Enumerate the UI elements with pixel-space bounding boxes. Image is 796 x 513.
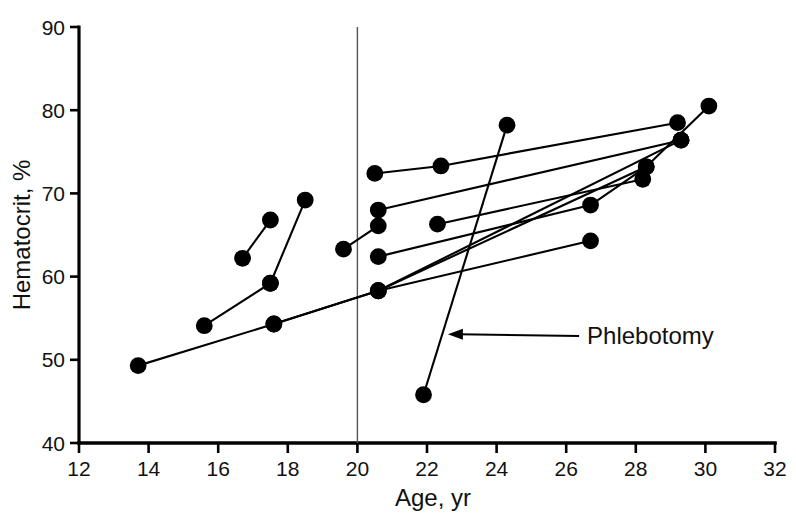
x-axis-title: Age, yr (395, 484, 471, 511)
data-point-patient-6-1[interactable] (370, 217, 387, 234)
x-tick-label-16: 16 (207, 457, 230, 480)
data-point-patient-4-4[interactable] (700, 98, 717, 115)
data-point-patient-7-2[interactable] (669, 114, 686, 131)
data-point-patient-1-0[interactable] (234, 250, 251, 267)
data-point-patient-7-1[interactable] (433, 158, 450, 175)
y-axis-title: Hematocrit, % (8, 160, 35, 311)
data-point-patient-9-1[interactable] (582, 197, 599, 214)
data-point-phlebotomy-series-1[interactable] (499, 117, 516, 134)
series-line-patient-7 (375, 123, 678, 174)
y-tick-label-40: 40 (42, 432, 65, 455)
data-point-patient-10-1[interactable] (634, 171, 651, 188)
x-tick-label-20: 20 (346, 457, 369, 480)
series-line-patient-3 (204, 283, 270, 325)
data-point-patient-10-0[interactable] (429, 216, 446, 233)
x-tick-label-14: 14 (137, 457, 161, 480)
data-point-patient-3-0[interactable] (196, 317, 213, 334)
series-line-patient-9 (378, 167, 646, 257)
annotation-arrowhead-0 (448, 329, 463, 340)
x-tick-label-12: 12 (67, 457, 90, 480)
series-line-patient-2 (270, 200, 305, 283)
data-point-patient-3-1[interactable] (262, 275, 279, 292)
x-tick-label-22: 22 (415, 457, 438, 480)
data-point-phlebotomy-series-0[interactable] (415, 386, 432, 403)
y-tick-label-90: 90 (42, 16, 65, 39)
x-tick-label-24: 24 (485, 457, 509, 480)
data-point-patient-8-1[interactable] (673, 132, 690, 149)
x-tick-label-18: 18 (276, 457, 299, 480)
data-point-patient-6-0[interactable] (335, 241, 352, 258)
y-tick-label-60: 60 (42, 265, 65, 288)
data-point-patient-1-1[interactable] (262, 212, 279, 229)
data-point-patient-7-0[interactable] (366, 165, 383, 182)
data-point-patient-8-0[interactable] (370, 202, 387, 219)
x-tick-label-26: 26 (555, 457, 578, 480)
y-tick-label-80: 80 (42, 99, 65, 122)
annotation-label-0: Phlebotomy (587, 322, 714, 349)
data-point-patient-2-1[interactable] (297, 192, 314, 209)
data-point-patient-11-1[interactable] (582, 232, 599, 249)
annotation-leader-0 (459, 334, 579, 336)
y-tick-label-70: 70 (42, 182, 65, 205)
data-point-patient-4-0[interactable] (130, 357, 147, 374)
data-point-patient-5-0[interactable] (265, 316, 282, 333)
hematocrit-vs-age-chart: 4050607080901214161820222426283032Age, y… (0, 0, 796, 513)
y-tick-label-50: 50 (42, 348, 65, 371)
data-point-patient-9-0[interactable] (370, 248, 387, 265)
x-tick-label-30: 30 (694, 457, 717, 480)
x-tick-label-28: 28 (624, 457, 647, 480)
data-point-patient-11-0[interactable] (370, 282, 387, 299)
chart-canvas: 4050607080901214161820222426283032Age, y… (0, 0, 796, 513)
x-tick-label-32: 32 (763, 457, 786, 480)
